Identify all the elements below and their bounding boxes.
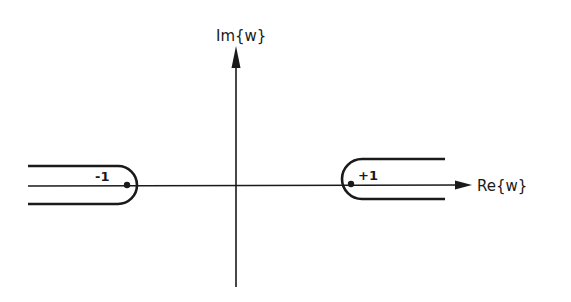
real-axis-arrow-icon — [455, 181, 472, 190]
imaginary-axis — [232, 46, 241, 287]
label-minus-one: -1 — [95, 169, 109, 184]
imaginary-axis-arrow-icon — [232, 46, 241, 68]
imaginary-axis-label: Im{w} — [216, 27, 266, 45]
complex-plane-diagram: -1 +1 Im{w} Re{w} — [0, 0, 571, 302]
point-plus-one — [348, 181, 354, 187]
point-minus-one — [124, 182, 130, 188]
real-axis-label: Re{w} — [477, 177, 527, 195]
label-plus-one: +1 — [358, 168, 378, 183]
